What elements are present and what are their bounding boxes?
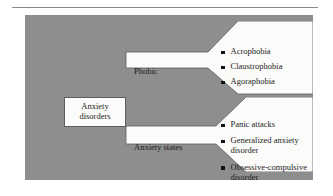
bullet-square-icon [221, 166, 225, 170]
list-item-label: Agoraphobia [231, 76, 275, 86]
list-item-label: Obsessive-compulsive disorder [231, 162, 314, 182]
bullet-square-icon [221, 81, 225, 85]
list-item: Generalized anxiety disorder [221, 135, 313, 155]
list-item: Panic attacks [221, 119, 313, 129]
root-node-anxiety-disorders: Anxiety disorders [64, 97, 126, 127]
list-item: Claustrophobia [221, 61, 282, 71]
list-item: Acrophobia [221, 46, 282, 56]
diagram-panel: Anxiety disorders Phobic Anxiety states … [25, 15, 313, 180]
root-node-line-2: disorders [79, 112, 110, 122]
bullet-square-icon [221, 51, 225, 55]
anxiety-states-item-list: Panic attacks Generalized anxiety disord… [221, 119, 313, 188]
list-item-label: Panic attacks [231, 119, 276, 129]
phobic-item-list: Acrophobia Claustrophobia Agoraphobia [221, 46, 282, 92]
anxiety-disorders-classification-diagram: Anxiety disorders Phobic Anxiety states … [0, 0, 333, 196]
list-item-label: Acrophobia [231, 46, 271, 56]
bullet-square-icon [221, 124, 225, 128]
bullet-square-icon [221, 66, 225, 70]
list-item-label: Generalized anxiety disorder [231, 135, 314, 155]
list-item: Agoraphobia [221, 76, 282, 86]
branch-label-phobic: Phobic [134, 66, 158, 76]
list-item-label: Claustrophobia [231, 61, 283, 71]
list-item: Obsessive-compulsive disorder [221, 162, 313, 182]
bullet-square-icon [221, 140, 225, 144]
branch-label-anxiety-states: Anxiety states [134, 142, 182, 152]
header-rule [12, 7, 318, 8]
